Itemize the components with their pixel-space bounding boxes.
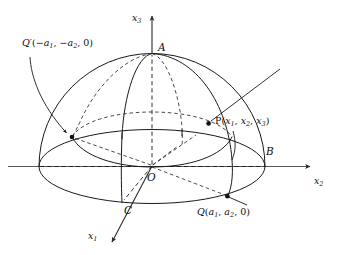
point-label-B: B (266, 146, 274, 157)
point-marker-Qprime (70, 135, 75, 140)
point-label-A: A (158, 42, 166, 53)
point-label-O: O (147, 172, 156, 183)
point-label-Q: Q(a1, a2, 0) (197, 207, 250, 218)
axis-x1 (112, 166, 152, 242)
point-marker-Q (225, 194, 230, 199)
point-label-Qprime: Q′(−a1, −a2, 0) (22, 38, 93, 49)
axis-label-x2: x2 (314, 176, 323, 187)
point-marker-P (206, 121, 211, 126)
leader-P-to-meridian (232, 131, 235, 160)
meridian-through-Qprime-hidden (72, 54, 152, 138)
radius-O-to-Q (152, 167, 227, 196)
radius-O-to-rim-upper-right (153, 146, 178, 165)
axis-label-x1: x1 (88, 231, 97, 242)
axis-label-x3: x3 (132, 13, 141, 24)
point-label-C: C (124, 205, 132, 216)
hemisphere-figure: x3 x2 x1 A B C O P(x1, x2, x3) Q(a1, a2,… (0, 0, 342, 255)
meridian-back-hidden (152, 54, 182, 145)
leader-Q-to-label (229, 197, 247, 205)
point-label-P: P(x1, x2, x3) (215, 116, 269, 127)
